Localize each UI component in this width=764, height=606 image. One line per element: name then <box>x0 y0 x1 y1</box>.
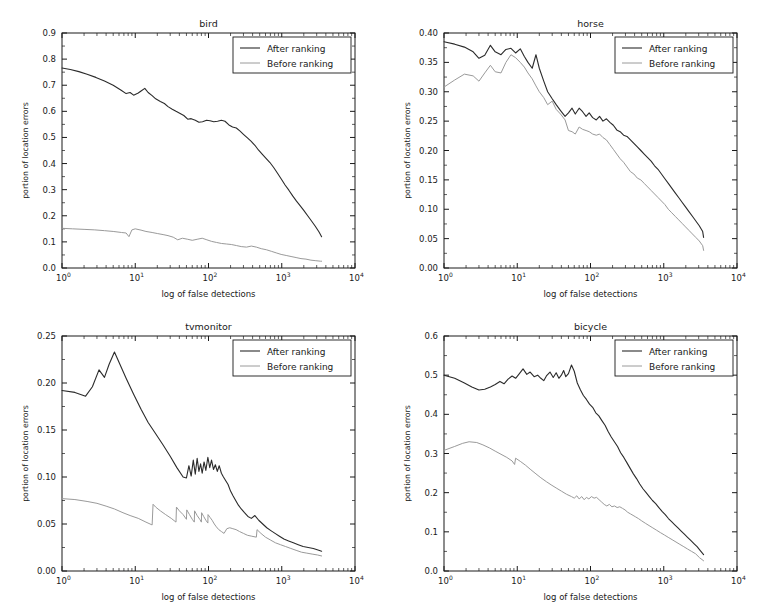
svg-text:10: 10 <box>585 576 596 586</box>
x-tick-label: 100 <box>56 271 71 283</box>
svg-text:0: 0 <box>449 574 453 581</box>
svg-text:0: 0 <box>67 271 71 278</box>
legend-label: After ranking <box>267 347 326 357</box>
x-tick-label: 101 <box>511 574 526 586</box>
x-tick-label: 102 <box>203 574 218 586</box>
svg-text:10: 10 <box>276 576 287 586</box>
svg-text:2: 2 <box>596 271 600 278</box>
svg-text:10: 10 <box>203 273 214 283</box>
legend-label: Before ranking <box>649 362 715 372</box>
svg-text:10: 10 <box>276 273 287 283</box>
svg-text:10: 10 <box>56 576 67 586</box>
y-tick-label: 0.20 <box>37 378 56 388</box>
legend-label: Before ranking <box>267 59 333 69</box>
y-tick-label: 0.25 <box>37 331 56 341</box>
y-tick-label: 0.10 <box>37 472 56 482</box>
svg-text:2: 2 <box>596 574 600 581</box>
y-tick-label: 0.20 <box>419 146 438 156</box>
plot-svg-tvmonitor: 1001011021031040.000.050.100.150.200.25t… <box>0 303 382 606</box>
svg-text:4: 4 <box>360 271 364 278</box>
y-tick-label: 0.15 <box>419 175 438 185</box>
y-tick-label: 0.05 <box>419 234 438 244</box>
legend-label: Before ranking <box>649 59 715 69</box>
y-tick-label: 0.5 <box>424 370 438 380</box>
x-tick-label: 101 <box>129 271 144 283</box>
x-tick-label: 100 <box>438 271 453 283</box>
x-tick-label: 103 <box>276 271 291 283</box>
panel-title: tvmonitor <box>185 321 232 332</box>
legend[interactable]: After rankingBefore ranking <box>615 340 733 376</box>
x-axis-label: log of false detections <box>161 592 256 602</box>
y-axis-label: portion of location errors <box>403 102 412 199</box>
chart-panel-tvmonitor: 1001011021031040.000.050.100.150.200.25t… <box>0 303 382 606</box>
svg-text:10: 10 <box>511 576 522 586</box>
svg-text:10: 10 <box>438 273 449 283</box>
legend[interactable]: After rankingBefore ranking <box>615 37 733 73</box>
panel-title: bird <box>199 18 217 29</box>
y-tick-label: 0.25 <box>419 116 438 126</box>
svg-text:10: 10 <box>349 273 360 283</box>
svg-text:10: 10 <box>731 273 742 283</box>
legend-label: After ranking <box>649 347 708 357</box>
svg-text:3: 3 <box>287 574 291 581</box>
svg-text:3: 3 <box>669 271 673 278</box>
y-tick-label: 0.15 <box>37 425 56 435</box>
y-tick-label: 0.2 <box>424 488 438 498</box>
legend-label: Before ranking <box>267 362 333 372</box>
y-tick-label: 0.8 <box>42 54 56 64</box>
svg-text:10: 10 <box>438 576 449 586</box>
svg-text:10: 10 <box>511 273 522 283</box>
svg-text:2: 2 <box>214 271 218 278</box>
legend-label: After ranking <box>649 44 708 54</box>
y-tick-label: 0.3 <box>424 449 438 459</box>
panel-title: bicycle <box>574 321 607 332</box>
svg-text:1: 1 <box>140 271 144 278</box>
x-tick-label: 102 <box>585 574 600 586</box>
svg-text:1: 1 <box>522 271 526 278</box>
y-tick-label: 0.40 <box>419 28 438 38</box>
plot-svg-horse: 1001011021031040.000.050.100.150.200.250… <box>382 0 764 303</box>
y-tick-label: 0.3 <box>42 185 56 195</box>
y-tick-label: 0.6 <box>424 331 438 341</box>
x-tick-label: 103 <box>658 574 673 586</box>
chart-panel-horse: 1001011021031040.000.050.100.150.200.250… <box>382 0 764 303</box>
x-tick-label: 104 <box>731 271 746 283</box>
x-tick-label: 103 <box>276 574 291 586</box>
figure-canvas: 1001011021031040.00.10.20.30.40.50.60.70… <box>0 0 764 606</box>
svg-text:3: 3 <box>287 271 291 278</box>
y-tick-label: 0.4 <box>424 409 438 419</box>
y-tick-label: 0.00 <box>419 263 438 273</box>
svg-text:4: 4 <box>742 271 746 278</box>
svg-text:10: 10 <box>585 273 596 283</box>
x-tick-label: 103 <box>658 271 673 283</box>
chart-panel-bicycle: 1001011021031040.00.10.20.30.40.50.6bicy… <box>382 303 764 606</box>
y-tick-label: 0.2 <box>42 211 56 221</box>
x-tick-label: 104 <box>349 574 364 586</box>
svg-text:10: 10 <box>658 576 669 586</box>
x-tick-label: 104 <box>731 574 746 586</box>
x-tick-label: 101 <box>511 271 526 283</box>
x-tick-label: 101 <box>129 574 144 586</box>
y-tick-label: 0.0 <box>42 263 56 273</box>
plot-svg-bicycle: 1001011021031040.00.10.20.30.40.50.6bicy… <box>382 303 764 606</box>
y-axis-label: portion of location errors <box>21 405 30 502</box>
chart-panel-bird: 1001011021031040.00.10.20.30.40.50.60.70… <box>0 0 382 303</box>
svg-text:1: 1 <box>522 574 526 581</box>
legend-label: After ranking <box>267 44 326 54</box>
y-tick-label: 0.1 <box>424 527 438 537</box>
x-axis-label: log of false detections <box>161 289 256 299</box>
x-tick-label: 100 <box>438 574 453 586</box>
svg-text:3: 3 <box>669 574 673 581</box>
x-axis-label: log of false detections <box>543 289 638 299</box>
x-tick-label: 102 <box>585 271 600 283</box>
svg-text:4: 4 <box>742 574 746 581</box>
panel-title: horse <box>577 18 604 29</box>
x-tick-label: 104 <box>349 271 364 283</box>
legend[interactable]: After rankingBefore ranking <box>233 37 351 73</box>
legend[interactable]: After rankingBefore ranking <box>233 340 351 376</box>
y-tick-label: 0.10 <box>419 204 438 214</box>
y-tick-label: 0.7 <box>42 80 56 90</box>
svg-text:10: 10 <box>203 576 214 586</box>
svg-text:10: 10 <box>129 576 140 586</box>
svg-text:4: 4 <box>360 574 364 581</box>
